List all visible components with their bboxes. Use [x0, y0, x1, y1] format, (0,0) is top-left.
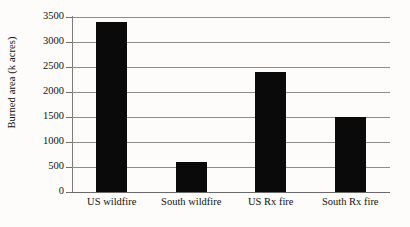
- bar-chart: Burned area (k acres) 050010001500200025…: [0, 0, 410, 227]
- y-axis-tick-label: 3000: [34, 36, 64, 47]
- y-axis-tick-mark: [66, 142, 72, 143]
- y-axis-tick-label: 500: [34, 161, 64, 172]
- y-axis-tick-mark: [66, 42, 72, 43]
- bar: [335, 117, 366, 192]
- y-axis-tick-mark: [66, 17, 72, 18]
- bar: [255, 72, 286, 192]
- x-axis-category-label: South Rx fire: [290, 196, 410, 209]
- plot-area: [72, 17, 390, 192]
- bar: [96, 22, 127, 192]
- y-axis-title: Burned area (k acres): [0, 0, 22, 196]
- plot-inner: [72, 17, 390, 192]
- y-axis-tick-label: 3500: [34, 11, 64, 22]
- y-axis-tick-mark: [66, 92, 72, 93]
- y-axis-tick-mark: [66, 167, 72, 168]
- y-axis-tick-label: 2000: [34, 86, 64, 97]
- y-axis-tick-mark: [66, 192, 72, 193]
- y-axis-tick-labels: 0500100015002000250030003500: [30, 0, 64, 227]
- y-axis-tick-label: 1000: [34, 136, 64, 147]
- y-axis-tick-label: 0: [34, 186, 64, 197]
- bar: [176, 162, 207, 192]
- x-axis-category-labels: US wildfireSouth wildfireUS Rx fireSouth…: [72, 196, 390, 216]
- y-axis-tick-mark: [66, 117, 72, 118]
- gridline: [72, 192, 390, 193]
- gridline: [72, 17, 390, 18]
- y-axis-tick-mark: [66, 67, 72, 68]
- y-axis-tick-label: 1500: [34, 111, 64, 122]
- y-axis-tick-label: 2500: [34, 61, 64, 72]
